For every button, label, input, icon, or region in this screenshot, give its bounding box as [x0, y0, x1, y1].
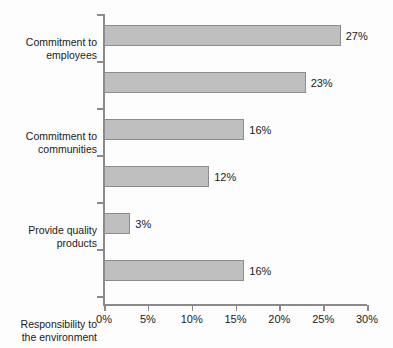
bar-value-label: 16% — [249, 265, 271, 277]
x-axis-tick — [148, 305, 150, 311]
bar-fill — [104, 260, 244, 281]
category-label-line: Responsibility to — [5, 318, 97, 331]
x-axis-tick-label: 0% — [96, 313, 112, 325]
x-axis-tick-label: 10% — [181, 313, 203, 325]
x-axis-tick — [104, 305, 106, 311]
bar-row: Commitment toemployees27% — [0, 14, 393, 61]
x-axis-tick-label: 5% — [140, 313, 156, 325]
category-label-line: the environment — [5, 331, 97, 344]
x-axis-tick — [323, 305, 325, 311]
bar-fill — [104, 25, 341, 46]
x-axis-tick-label: 30% — [356, 313, 378, 325]
bar: 16% — [104, 260, 244, 281]
x-axis-tick-label: 25% — [312, 313, 334, 325]
bar-row: Commitment tocommunities23% — [0, 61, 393, 108]
bar-row: Make charitabledonations3% — [0, 202, 393, 249]
x-axis-tick — [192, 305, 194, 311]
bar-value-label: 16% — [249, 124, 271, 136]
bar-fill — [104, 72, 306, 93]
bar-fill — [104, 166, 209, 187]
category-label-line: Commitment to — [5, 36, 97, 49]
x-axis-tick-label: 15% — [224, 313, 246, 325]
category-label: Responsibility tothe environment — [5, 318, 97, 343]
bar: 23% — [104, 72, 306, 93]
bar-value-label: 27% — [346, 30, 368, 42]
x-axis-tick-label: 20% — [268, 313, 290, 325]
bar-row: Responsibility tothe environment12% — [0, 155, 393, 202]
bar-chart: Commitment toemployees27%Commitment toco… — [0, 0, 393, 348]
x-axis-tick — [367, 305, 369, 311]
y-axis-tick — [97, 296, 104, 298]
bar-value-label: 3% — [135, 218, 151, 230]
bar: 16% — [104, 119, 244, 140]
category-label: Commitment toemployees — [5, 36, 97, 61]
x-axis-tick — [279, 305, 281, 311]
bar-value-label: 23% — [311, 77, 333, 89]
category-label-line: employees — [5, 49, 97, 62]
bar: 12% — [104, 166, 209, 187]
bar-fill — [104, 119, 244, 140]
bar: 27% — [104, 25, 341, 46]
bar-row: Provide qualityproducts16% — [0, 108, 393, 155]
x-axis-tick — [236, 305, 238, 311]
bar-fill — [104, 213, 130, 234]
bar-value-label: 12% — [214, 171, 236, 183]
bar: 3% — [104, 213, 130, 234]
bar-row: Don’t know16% — [0, 249, 393, 296]
